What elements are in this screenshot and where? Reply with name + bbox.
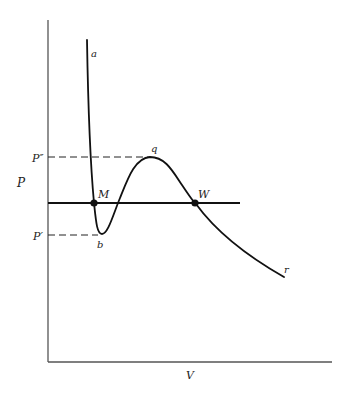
- y-axis-label: P: [16, 176, 26, 190]
- curve-label-a: a: [91, 48, 97, 59]
- point-m-label: M: [97, 188, 110, 201]
- pv-diagram: P V P″ P′ a b q r M W: [0, 0, 351, 398]
- p-prime-label: P′: [32, 230, 43, 243]
- p-double-prime-label: P″: [31, 152, 44, 165]
- curve-label-b: b: [97, 239, 103, 250]
- curve-label-r: r: [284, 264, 290, 275]
- point-w-label: W: [198, 188, 211, 201]
- x-axis-label: V: [186, 369, 195, 382]
- isotherm-curve: [87, 40, 284, 277]
- point-m-marker: [90, 199, 97, 206]
- curve-label-q: q: [151, 143, 157, 154]
